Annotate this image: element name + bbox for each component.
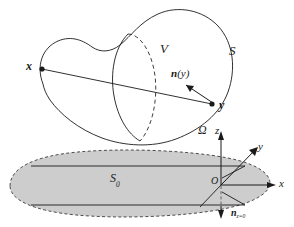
label-point-y: y (219, 99, 224, 111)
label-axis-z: z (215, 125, 219, 136)
label-region-S0: S0 (110, 172, 120, 187)
cross-section-front-arc (113, 34, 140, 141)
axis-x-arrowhead (267, 182, 276, 188)
cross-section-ring (113, 34, 156, 141)
label-point-x: x (26, 60, 32, 72)
label-axis-y: y (258, 141, 263, 152)
normal-vector-n-y (186, 85, 213, 103)
label-surface-S: S (229, 44, 236, 57)
label-domain-omega: Ω (198, 124, 207, 136)
figure-vector-graphics (0, 0, 294, 227)
figure-canvas: x y V S n(y) Ω S0 O x y z nz=0 (0, 0, 294, 227)
label-volume-V: V (160, 42, 168, 55)
normal-z0-arrowhead (218, 210, 224, 219)
point-marker-x (39, 66, 44, 71)
normal-vector-arrowhead (186, 85, 194, 92)
label-origin-O: O (211, 176, 218, 186)
label-normal-n-z0: nz=0 (231, 208, 245, 218)
label-normal-n-of-y: n(y) (171, 68, 189, 79)
label-normal-n-argument: (y) (177, 67, 189, 79)
label-region-S0-subscript: 0 (116, 180, 120, 189)
label-normal-n-z0-base: n (231, 207, 237, 218)
label-axis-x: x (279, 178, 284, 189)
label-normal-n-z0-subscript: z=0 (237, 213, 246, 219)
